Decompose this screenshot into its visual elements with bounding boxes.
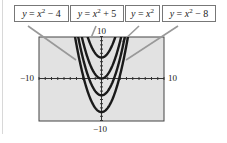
- graph-plot: [0, 0, 227, 143]
- y-max-label: 10: [97, 27, 106, 36]
- y-min-label: −10: [93, 125, 107, 134]
- x-min-label: −10: [20, 74, 34, 83]
- x-max-label: 10: [168, 74, 177, 83]
